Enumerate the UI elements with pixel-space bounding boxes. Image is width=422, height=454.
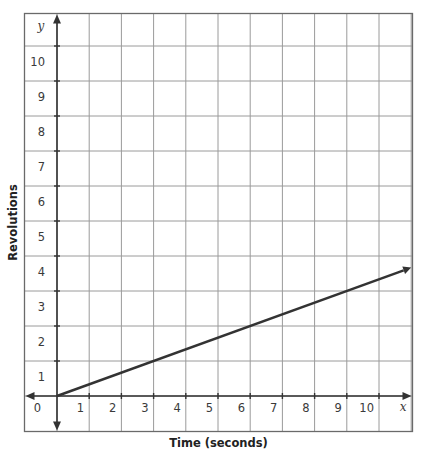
- x-tick-label: 1: [77, 401, 84, 415]
- y-tick-label: 5: [38, 230, 45, 244]
- y-axis-variable: y: [37, 19, 45, 33]
- y-tick-label: 8: [38, 125, 45, 139]
- data-series: [57, 267, 411, 396]
- y-tick-label: 4: [38, 265, 45, 279]
- x-axis-right-arrow-icon: [403, 392, 412, 400]
- y-axis-title: Revolutions: [6, 184, 20, 261]
- y-tick-label: 10: [30, 55, 45, 69]
- y-axis-down-arrow-icon: [53, 422, 61, 431]
- x-tick-label: 3: [141, 401, 148, 415]
- x-tick-label: 4: [173, 401, 180, 415]
- origin-label: 0: [34, 401, 41, 415]
- y-tick-label: 7: [38, 160, 45, 174]
- y-tick-label: 9: [38, 90, 45, 104]
- x-tick-label: 8: [302, 401, 309, 415]
- y-tick-labels: 12345678910: [30, 55, 45, 384]
- x-axis-variable: x: [400, 400, 407, 414]
- y-tick-label: 2: [38, 335, 45, 349]
- x-tick-label: 10: [359, 401, 374, 415]
- y-tick-label: 3: [38, 300, 45, 314]
- y-tick-label: 6: [38, 195, 45, 209]
- line-chart: 12345678910 12345678910 0 x y Time (seco…: [0, 0, 422, 454]
- x-tick-label: 6: [238, 401, 245, 415]
- x-tick-label: 7: [270, 401, 277, 415]
- y-tick-label: 1: [38, 370, 45, 384]
- x-axis-title: Time (seconds): [169, 436, 268, 450]
- x-axis-left-arrow-icon: [26, 392, 35, 400]
- x-tick-label: 9: [334, 401, 341, 415]
- grid-lines: [25, 14, 413, 432]
- x-tick-label: 2: [109, 401, 116, 415]
- y-axis-up-arrow-icon: [53, 15, 61, 24]
- tick-marks: [54, 46, 379, 399]
- series-line: [57, 270, 404, 396]
- x-tick-label: 5: [206, 401, 213, 415]
